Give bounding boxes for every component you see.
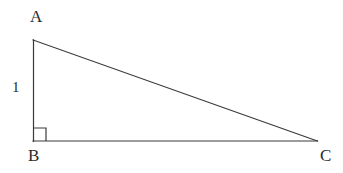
vertex-label-b: B bbox=[28, 147, 39, 164]
triangle-diagram bbox=[0, 0, 343, 173]
vertex-label-a: A bbox=[30, 8, 42, 25]
diagram-background bbox=[0, 0, 343, 173]
vertex-label-c: C bbox=[320, 147, 331, 164]
side-length-label-ab: 1 bbox=[12, 80, 20, 95]
